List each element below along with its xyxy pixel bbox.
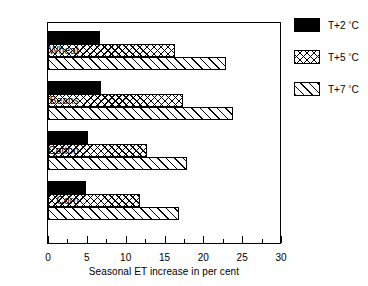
bar-corn-series-3 bbox=[48, 207, 179, 220]
x-tick-major-5 bbox=[87, 236, 88, 243]
bar-cotton-series-1 bbox=[48, 131, 88, 144]
bar-cotton-series-3 bbox=[48, 157, 187, 170]
x-tick-major-10 bbox=[126, 236, 127, 243]
bar-beans-series-1 bbox=[48, 81, 101, 94]
legend: T+2 °CT+5 °CT+7 °C bbox=[294, 18, 368, 114]
legend-entry-1: T+2 °C bbox=[294, 18, 368, 33]
degree-symbol: ° bbox=[348, 84, 351, 93]
bar-beans-series-3 bbox=[48, 107, 233, 120]
bar-chart-figure: WheatBeansCottonCorn 051015202530 Season… bbox=[0, 0, 368, 286]
x-tick-label-5: 5 bbox=[84, 252, 90, 263]
x-tick-major-0 bbox=[48, 236, 49, 243]
legend-swatch-diag bbox=[294, 82, 320, 96]
x-tick-label-0: 0 bbox=[45, 252, 51, 263]
x-tick-minor-2.5 bbox=[67, 239, 68, 243]
legend-entry-2: T+5 °C bbox=[294, 50, 368, 65]
x-tick-label-20: 20 bbox=[198, 252, 209, 263]
x-tick-minor-12.5 bbox=[145, 239, 146, 243]
x-tick-major-15 bbox=[165, 236, 166, 243]
x-tick-major-30 bbox=[281, 236, 282, 243]
legend-label-3: T+7 °C bbox=[328, 83, 359, 96]
legend-swatch-solid bbox=[294, 18, 320, 32]
x-tick-label-15: 15 bbox=[159, 252, 170, 263]
x-tick-minor-27.5 bbox=[262, 239, 263, 243]
legend-label-2: T+5 °C bbox=[328, 51, 359, 64]
degree-symbol: ° bbox=[348, 52, 351, 61]
bar-wheat-series-1 bbox=[48, 31, 100, 44]
x-tick-label-30: 30 bbox=[275, 252, 286, 263]
category-label-corn: Corn bbox=[0, 195, 79, 206]
degree-symbol: ° bbox=[348, 20, 351, 29]
x-tick-minor-22.5 bbox=[223, 239, 224, 243]
bar-corn-series-1 bbox=[48, 181, 86, 194]
x-tick-major-25 bbox=[242, 236, 243, 243]
category-label-beans: Beans bbox=[0, 95, 79, 106]
x-axis-title: Seasonal ET increase in per cent bbox=[47, 266, 281, 278]
x-tick-minor-17.5 bbox=[184, 239, 185, 243]
legend-entry-3: T+7 °C bbox=[294, 82, 368, 97]
category-label-wheat: Wheat bbox=[0, 45, 79, 56]
legend-label-1: T+2 °C bbox=[328, 19, 359, 32]
x-tick-minor-7.5 bbox=[106, 239, 107, 243]
x-tick-label-25: 25 bbox=[237, 252, 248, 263]
x-tick-major-20 bbox=[203, 236, 204, 243]
category-label-cotton: Cotton bbox=[0, 145, 79, 156]
bar-wheat-series-3 bbox=[48, 57, 226, 70]
x-tick-label-10: 10 bbox=[120, 252, 131, 263]
legend-swatch-cross bbox=[294, 50, 320, 64]
bars-layer bbox=[48, 23, 281, 243]
